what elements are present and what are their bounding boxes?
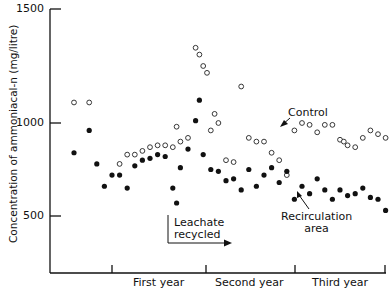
recirculation-point xyxy=(383,208,388,213)
recirculation-point xyxy=(201,152,206,157)
recirculation-point xyxy=(178,165,183,170)
recirculation-point xyxy=(360,186,365,191)
control-point xyxy=(307,122,312,127)
recirculation-point xyxy=(375,197,380,202)
recirculation-point xyxy=(102,184,107,189)
control-point xyxy=(345,143,350,148)
control-point xyxy=(376,132,381,137)
control-point xyxy=(315,130,320,135)
control-point xyxy=(262,139,267,144)
leachate-arrowhead-icon xyxy=(224,240,232,247)
recirculation-point xyxy=(330,197,335,202)
recirculation-point xyxy=(71,150,76,155)
control-point xyxy=(353,145,358,150)
recirculation-arrow-line xyxy=(299,195,309,209)
recirculation-point xyxy=(125,186,130,191)
recirculation-point xyxy=(345,193,350,198)
recirculation-point xyxy=(337,187,342,192)
recirculation-point xyxy=(163,154,168,159)
control-point xyxy=(140,149,145,154)
recirculation-point xyxy=(246,167,251,172)
recirculation-point xyxy=(193,118,198,123)
control-point xyxy=(212,111,217,116)
control-point xyxy=(254,139,259,144)
recirculation-point xyxy=(353,191,358,196)
recirculation-point xyxy=(208,167,213,172)
x-category-second-year: Second year xyxy=(215,276,284,289)
x-category-third-year: Third year xyxy=(312,276,368,289)
annotation-recirculation: Recirculation area xyxy=(281,211,352,235)
control-point xyxy=(368,128,373,133)
recirculation-point xyxy=(117,172,122,177)
control-point xyxy=(360,135,365,140)
recirculation-point xyxy=(231,176,236,181)
annotation-recirculation-line2: area xyxy=(281,223,352,235)
recirculation-point xyxy=(223,178,228,183)
recirculation-point xyxy=(87,128,92,133)
control-point xyxy=(330,122,335,127)
chart-root: Concentration of ammoniacal-n (mg/litre)… xyxy=(0,0,390,295)
y-tick-1000: 1000 xyxy=(8,116,44,129)
control-point xyxy=(193,45,198,50)
recirculation-point xyxy=(284,169,289,174)
recirculation-point xyxy=(174,200,179,205)
control-point xyxy=(125,152,130,157)
annotation-leachate-line2: recycled xyxy=(174,229,224,241)
annotation-control: Control xyxy=(288,107,328,119)
control-point xyxy=(292,128,297,133)
y-tick-500: 500 xyxy=(8,209,44,222)
recirculation-point xyxy=(299,184,304,189)
control-point xyxy=(148,145,153,150)
control-point xyxy=(246,135,251,140)
control-point xyxy=(186,135,191,140)
recirculation-point xyxy=(109,172,114,177)
recirculation-point xyxy=(307,191,312,196)
control-point xyxy=(208,128,213,133)
recirculation-point xyxy=(132,163,137,168)
control-point xyxy=(322,122,327,127)
y-tick-1500: 1500 xyxy=(8,2,44,15)
recirculation-point xyxy=(216,169,221,174)
control-point xyxy=(155,143,160,148)
control-point xyxy=(269,150,274,155)
recirculation-point xyxy=(94,161,99,166)
recirculation-point xyxy=(239,187,244,192)
annotation-leachate-recycled: Leachate recycled xyxy=(174,217,224,241)
recirculation-point xyxy=(322,187,327,192)
recirculation-point xyxy=(170,186,175,191)
control-point xyxy=(163,143,168,148)
control-point xyxy=(174,124,179,129)
recirculation-point xyxy=(155,152,160,157)
scatter-plot xyxy=(0,0,390,295)
control-point xyxy=(341,139,346,144)
control-point xyxy=(132,152,137,157)
recirculation-point xyxy=(292,197,297,202)
control-point xyxy=(117,162,122,167)
control-point xyxy=(170,145,175,150)
recirculation-point xyxy=(269,165,274,170)
recirculation-point xyxy=(368,195,373,200)
control-point xyxy=(205,70,210,75)
control-point xyxy=(224,158,229,163)
recirculation-point xyxy=(147,156,152,161)
control-point xyxy=(87,100,92,105)
control-point xyxy=(197,52,202,57)
recirculation-arrowhead-icon xyxy=(297,191,302,198)
recirculation-point xyxy=(315,176,320,181)
control-point xyxy=(383,135,388,140)
control-point xyxy=(178,139,183,144)
x-category-first-year: First year xyxy=(133,276,184,289)
recirculation-point xyxy=(197,98,202,103)
recirculation-point xyxy=(261,172,266,177)
control-point xyxy=(201,64,206,69)
control-point xyxy=(231,160,236,165)
recirculation-point xyxy=(277,180,282,185)
control-point xyxy=(239,84,244,89)
control-point xyxy=(300,121,305,126)
control-point xyxy=(72,100,77,105)
recirculation-point xyxy=(140,158,145,163)
recirculation-point xyxy=(254,184,259,189)
control-point xyxy=(277,158,282,163)
recirculation-point xyxy=(185,146,190,151)
control-point xyxy=(216,121,221,126)
